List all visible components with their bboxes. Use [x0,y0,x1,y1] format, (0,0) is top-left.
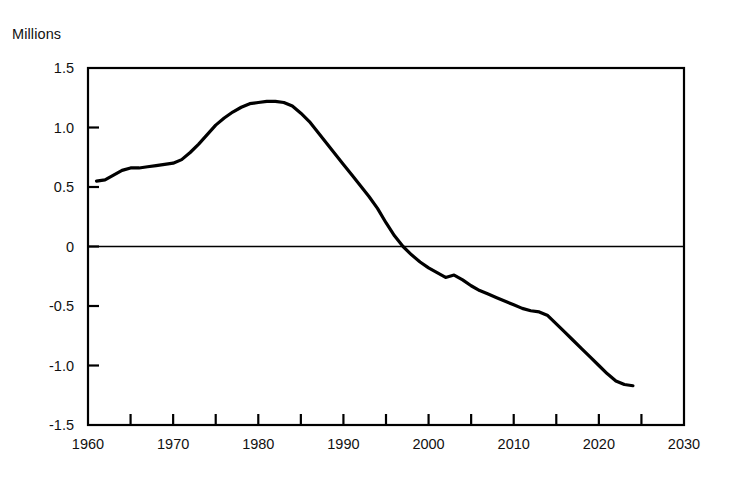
y-tick-label: -1.5 [0,417,74,433]
data-series-line [97,101,633,385]
x-tick-label: 1960 [72,436,104,452]
chart-container: Millions 1.51.00.50-0.5-1.0-1.5 19601970… [0,0,729,488]
y-tick-label: -0.5 [0,298,74,314]
x-tick-label: 1970 [157,436,189,452]
line-chart-plot [0,0,729,488]
y-tick-label: 1.5 [0,60,74,76]
y-tick-label: -1.0 [0,358,74,374]
y-tick-label: 0.5 [0,179,74,195]
x-tick-label: 1980 [242,436,274,452]
x-tick-label: 1990 [327,436,359,452]
x-tick-label: 2010 [498,436,530,452]
axis-ticks [88,128,641,426]
x-tick-label: 2000 [412,436,444,452]
x-tick-label: 2030 [668,436,700,452]
x-tick-label: 2020 [583,436,615,452]
y-tick-label: 0 [0,239,74,255]
y-tick-label: 1.0 [0,120,74,136]
